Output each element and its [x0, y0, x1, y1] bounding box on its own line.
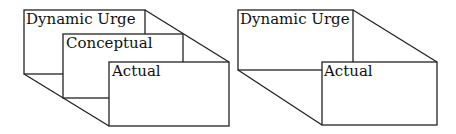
- actual-label: Actual: [323, 62, 373, 80]
- conceptual-label: Conceptual: [66, 34, 153, 52]
- actual-label: Actual: [111, 62, 161, 80]
- dynamic-urge-label: Dynamic Urge: [240, 10, 350, 28]
- top-diagonal: [353, 10, 437, 62]
- dynamic-urge-label: Dynamic Urge: [26, 10, 136, 28]
- diagram-canvas: Dynamic Urge Conceptual Actual Dynamic U…: [0, 0, 456, 134]
- three-layer-diagram: Dynamic Urge Conceptual Actual: [24, 10, 229, 126]
- bottom-diagonal: [238, 70, 322, 125]
- two-layer-diagram: Dynamic Urge Actual: [238, 10, 437, 125]
